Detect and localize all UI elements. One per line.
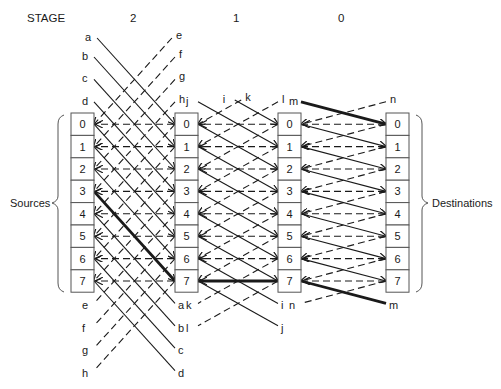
wrap-label-solid-bottom: j (280, 322, 283, 334)
register-cell-index: 5 (286, 230, 292, 242)
wrap-label-solid-top: d (82, 95, 88, 107)
shuffle-wire-dashed (198, 100, 241, 124)
wrap-label-dashed-bottom: e (82, 299, 88, 311)
register-cell-index: 7 (79, 275, 85, 287)
register-cell-index: 2 (394, 163, 400, 175)
register-cell-index: 3 (394, 185, 400, 197)
shuffle-wire-dashed (94, 38, 172, 124)
wrap-label-dashed-bottom: n (289, 299, 295, 311)
wrap-label-dashed-top: k (245, 91, 251, 103)
wrap-label-solid-bottom: d (178, 367, 184, 379)
wrap-label-dashed-top: f (179, 48, 183, 60)
sources-brace (52, 115, 64, 292)
shuffle-exchange-network-diagram: STAGE 2 1 0 0123456701234567012345670123… (0, 0, 501, 389)
wrap-label-solid-top: m (289, 95, 298, 107)
register-cell-index: 7 (286, 275, 292, 287)
stage-header-label: STAGE (27, 12, 65, 24)
wrap-label-dashed-top: g (179, 70, 185, 82)
register-cell-index: 4 (79, 208, 85, 220)
wrap-label-dashed-bottom: f (82, 322, 86, 334)
wrap-label-dashed-top: n (390, 93, 396, 105)
register-cell-index: 1 (286, 141, 292, 153)
wrap-label-dashed-top: l (282, 93, 284, 105)
wrap-label-solid-top: c (82, 72, 88, 84)
wrap-label-solid-top: i (223, 93, 225, 105)
register-cell-index: 1 (79, 141, 85, 153)
register-cell-index: 6 (286, 253, 292, 265)
register-cell-index: 6 (79, 253, 85, 265)
register-columns: 01234567012345670123456701234567 (71, 113, 409, 292)
stage-0-label: 0 (338, 12, 344, 24)
stage-2-label: 2 (130, 12, 136, 24)
shuffle-wire-solid (235, 100, 278, 124)
register-cell-index: 4 (394, 208, 400, 220)
register-cell-index: 0 (394, 118, 400, 130)
destinations-brace (416, 115, 428, 292)
register-cell-index: 4 (183, 208, 189, 220)
wrap-label-dashed-top: h (179, 93, 185, 105)
register-cell-index: 2 (183, 163, 189, 175)
wiring-layer (94, 38, 386, 371)
wrap-label-solid-bottom: m (389, 299, 398, 311)
register-cell-index: 2 (286, 163, 292, 175)
register-cell-index: 0 (183, 118, 189, 130)
register-cell-index: 2 (79, 163, 85, 175)
wrap-label-solid-bottom: a (178, 299, 185, 311)
register-cell-index: 7 (183, 275, 189, 287)
register-cell-index: 3 (183, 185, 189, 197)
wrap-label-solid-bottom: b (178, 322, 184, 334)
stage-1-label: 1 (233, 12, 239, 24)
wrap-label-dashed-top: e (176, 29, 182, 41)
wrap-label-dashed-bottom: h (82, 367, 88, 379)
register-cell-index: 5 (79, 230, 85, 242)
register-cell-index: 5 (183, 230, 189, 242)
wrap-label-solid-bottom: c (178, 344, 184, 356)
register-cell-index: 7 (394, 275, 400, 287)
wrap-label-dashed-bottom: g (82, 344, 88, 356)
register-cell-index: 6 (394, 253, 400, 265)
wrap-label-solid-bottom: i (281, 299, 283, 311)
register-cell-index: 1 (183, 141, 189, 153)
sources-label: Sources (10, 197, 51, 209)
register-cell-index: 3 (79, 185, 85, 197)
register-cell-index: 3 (286, 185, 292, 197)
destinations-label: Destinations (432, 197, 493, 209)
wrap-label-solid-top: b (82, 50, 88, 62)
wrap-label-dashed-bottom: k (186, 299, 192, 311)
wrap-labels: aaeebbffccggddhhiikkjjllmmnn (82, 29, 398, 379)
wrap-label-solid-top: j (185, 95, 188, 107)
register-cell-index: 4 (286, 208, 292, 220)
register-cell-index: 6 (183, 253, 189, 265)
register-cell-index: 0 (79, 118, 85, 130)
register-cell-index: 1 (394, 141, 400, 153)
register-cell-index: 5 (394, 230, 400, 242)
register-cell-index: 0 (286, 118, 292, 130)
wrap-label-dashed-bottom: l (186, 322, 188, 334)
wrap-label-solid-top: a (85, 31, 92, 43)
shuffle-wire-solid (97, 38, 175, 124)
